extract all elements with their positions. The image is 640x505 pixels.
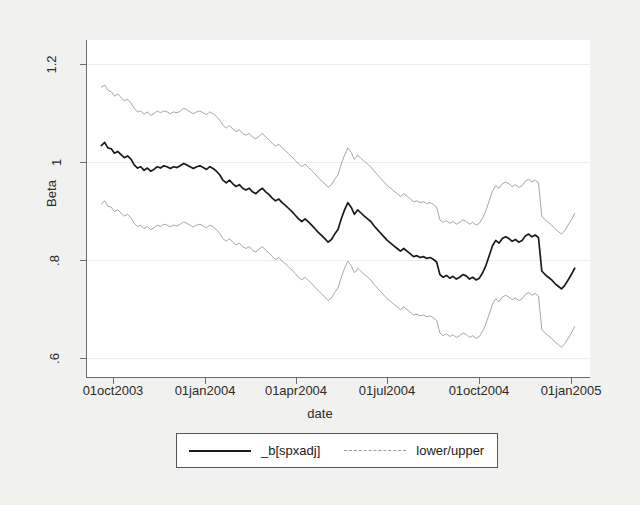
x-axis-line (86, 377, 590, 378)
x-tick-label-0: 01oct2003 (83, 383, 144, 398)
x-axis-title: date (0, 406, 640, 421)
chart-canvas: 1.2 1 .8 .6 01oct2003 01jan2004 01apr200… (0, 0, 640, 505)
y-tick-text-3: .6 (47, 353, 62, 364)
y-tick-text-0: 1.2 (43, 55, 58, 73)
y-tick-text-2: .8 (47, 255, 62, 266)
gridline-y-0_8 (86, 260, 590, 261)
gridline-y-1_2 (86, 64, 590, 65)
y-tick-text-1: 1 (49, 159, 64, 166)
y-axis-title: Beta (44, 180, 59, 207)
y-tick-label-2: .8 (0, 253, 60, 268)
y-tick-mark-0 (80, 64, 86, 65)
legend-swatch-solid-icon (189, 450, 251, 452)
plot-area (86, 40, 590, 377)
gridline-y-0_6 (86, 358, 590, 359)
legend-label-lower-upper: lower/upper (416, 443, 484, 458)
y-tick-mark-1 (80, 162, 86, 163)
chart-legend: _b[spxadj] lower/upper (176, 433, 498, 468)
legend-entry-lower-upper: lower/upper (344, 443, 484, 458)
y-tick-label-0: 1.2 (0, 57, 60, 72)
y-tick-label-3: .6 (0, 351, 60, 366)
x-tick-label-4: 01oct2004 (449, 383, 510, 398)
y-axis-line (86, 40, 87, 378)
y-tick-mark-3 (80, 358, 86, 359)
y-tick-label-1: 1 (0, 155, 60, 170)
y-tick-mark-2 (80, 260, 86, 261)
gridline-y-1 (86, 162, 590, 163)
legend-label-b-spxadj: _b[spxadj] (261, 443, 320, 458)
legend-entry-b-spxadj: _b[spxadj] (189, 443, 320, 458)
x-tick-label-3: 01jul2004 (359, 383, 415, 398)
x-tick-label-1: 01jan2004 (175, 383, 236, 398)
x-tick-label-5: 01jan2005 (541, 383, 602, 398)
legend-swatch-dashed-icon (344, 450, 406, 451)
x-tick-label-2: 01apr2004 (265, 383, 327, 398)
